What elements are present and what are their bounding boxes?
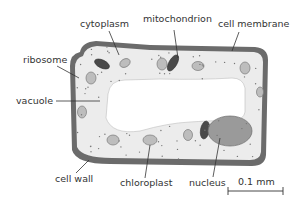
label-cell-membrane: cell membrane: [218, 18, 289, 29]
ribosome: [161, 145, 162, 146]
ribosome: [158, 141, 159, 142]
ribosome: [98, 148, 99, 149]
label-cell-wall: cell wall: [55, 173, 93, 184]
ribosome: [85, 88, 86, 89]
chloroplast: [143, 135, 157, 145]
chloroplast: [107, 135, 119, 145]
ribosome: [169, 126, 170, 127]
chloroplast: [257, 87, 264, 97]
ribosome: [129, 135, 130, 136]
ribosome: [246, 123, 247, 124]
ribosome: [195, 140, 196, 141]
ribosome: [91, 49, 92, 50]
ribosome: [80, 64, 81, 65]
chloroplast: [86, 72, 96, 84]
ribosome: [258, 109, 259, 110]
ribosome: [202, 64, 203, 65]
ribosome: [106, 46, 107, 47]
ribosome: [177, 149, 178, 150]
ribosome: [255, 68, 256, 69]
ribosome: [178, 158, 179, 159]
ribosome: [158, 55, 159, 56]
ribosome: [119, 140, 120, 141]
ribosome: [160, 130, 161, 131]
ribosome: [203, 65, 204, 66]
ribosome: [252, 156, 253, 157]
chloroplast: [240, 62, 250, 74]
ribosome: [244, 76, 245, 77]
ribosome: [139, 151, 140, 152]
ribosome: [208, 125, 209, 126]
ribosome: [255, 83, 256, 84]
ribosome: [241, 128, 242, 129]
ribosome: [204, 130, 205, 131]
ribosome: [97, 74, 98, 75]
ribosome: [77, 132, 78, 133]
leader-cell-wall: [76, 160, 89, 173]
chloroplast: [184, 130, 193, 141]
ribosome: [126, 133, 127, 134]
nucleus: [208, 116, 252, 146]
ribosome: [108, 52, 109, 53]
ribosome: [193, 56, 194, 57]
ribosome: [199, 145, 200, 146]
ribosome: [91, 54, 92, 55]
ribosome: [199, 55, 200, 56]
ribosome: [125, 73, 126, 74]
label-cytoplasm: cytoplasm: [80, 18, 129, 29]
label-vacuole: vacuole: [16, 95, 53, 106]
label-nucleus: nucleus: [189, 177, 226, 188]
label-ribosome: ribosome: [23, 54, 67, 65]
ribosome: [98, 97, 99, 98]
ribosome: [160, 57, 161, 58]
ribosome: [216, 135, 217, 136]
chloroplast: [157, 58, 167, 70]
ribosome: [237, 156, 238, 157]
ribosome: [151, 59, 152, 60]
ribosome: [250, 144, 251, 145]
ribosome: [99, 136, 100, 137]
label-scale: 0.1 mm: [238, 176, 275, 187]
ribosome: [90, 146, 91, 147]
ribosome: [81, 114, 82, 115]
ribosome: [101, 72, 102, 73]
ribosome: [90, 151, 91, 152]
ribosome: [77, 87, 78, 88]
ribosome: [199, 64, 200, 65]
ribosome: [159, 73, 160, 74]
ribosome: [87, 87, 88, 88]
ribosome: [162, 156, 163, 157]
ribosome: [164, 73, 165, 74]
label-mitochondrion: mitochondrion: [143, 13, 212, 24]
ribosome: [104, 134, 105, 135]
ribosome: [218, 120, 219, 121]
ribosome: [169, 73, 170, 74]
plant-cell-diagram: cytoplasm mitochondrion cell membrane ri…: [0, 0, 296, 209]
label-chloroplast: chloroplast: [120, 177, 173, 188]
ribosome: [202, 78, 203, 79]
ribosome: [120, 146, 121, 147]
ribosome: [176, 140, 177, 141]
ribosome: [110, 81, 111, 82]
ribosome: [107, 51, 108, 52]
chloroplast: [192, 62, 204, 71]
scale-bar: [228, 187, 283, 195]
ribosome: [234, 63, 235, 64]
ribosome: [215, 61, 216, 62]
ribosome: [168, 52, 169, 53]
chloroplast: [78, 106, 87, 118]
ribosome: [125, 154, 126, 155]
ribosome: [224, 62, 225, 63]
ribosome: [84, 93, 85, 94]
ribosome: [119, 80, 120, 81]
ribosome: [223, 150, 224, 151]
